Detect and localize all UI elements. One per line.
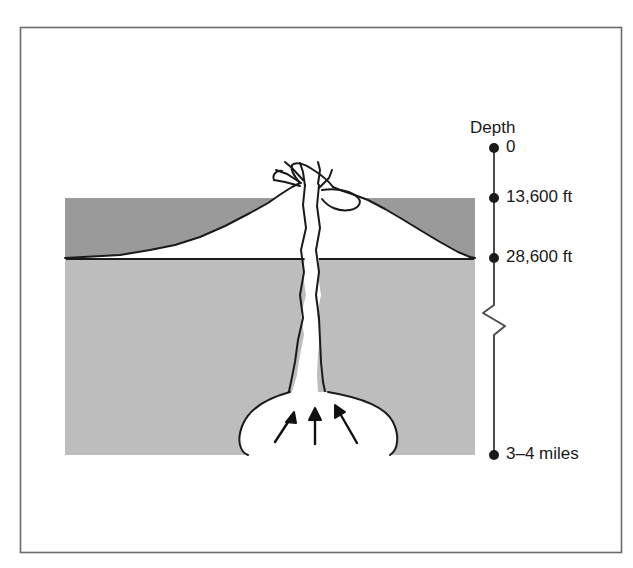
- scale-tick-dot-2: [489, 253, 499, 263]
- scale-tick-dot-1: [489, 193, 499, 203]
- scale-tick-dot-3: [489, 450, 499, 460]
- geology-cross-section: [65, 162, 475, 455]
- scale-tick-dot-0: [489, 143, 499, 153]
- scale-tick-label-3: 3–4 miles: [506, 444, 579, 463]
- volcano-cross-section-figure: Depth 0 13,600 ft 28,600 ft 3–4 miles: [0, 0, 633, 568]
- scale-tick-label-2: 28,600 ft: [506, 247, 572, 266]
- scale-tick-label-0: 0: [506, 137, 515, 156]
- scale-tick-label-1: 13,600 ft: [506, 187, 572, 206]
- scale-axis-label: Depth: [470, 118, 515, 137]
